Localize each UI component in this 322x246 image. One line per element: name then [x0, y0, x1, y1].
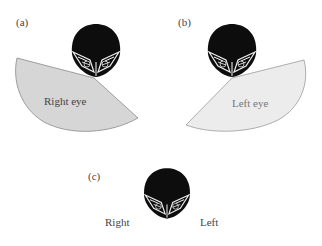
right-eye-label: Right eye — [44, 95, 86, 107]
panel-b — [186, 24, 306, 131]
owl-head-icon — [208, 24, 256, 77]
owl-head-icon — [144, 168, 190, 218]
panel-a — [16, 24, 138, 131]
panel-b-label: (b) — [178, 16, 191, 28]
panel-c — [144, 168, 190, 218]
left-side-label: Left — [200, 216, 218, 228]
left-eye-label: Left eye — [232, 97, 268, 109]
panel-c-label: (c) — [88, 170, 100, 182]
owl-visual-field-diagram — [0, 0, 322, 246]
right-side-label: Right — [105, 216, 129, 228]
left-eye-field — [186, 60, 306, 131]
panel-a-label: (a) — [16, 16, 28, 28]
owl-head-icon — [72, 24, 120, 77]
